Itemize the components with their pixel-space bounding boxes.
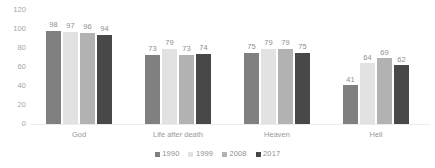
- y-axis-tick: 40: [0, 82, 26, 90]
- x-axis-baseline: [30, 124, 430, 125]
- bar-slot: 96: [80, 10, 95, 124]
- bars-row: 98 97 96 94: [46, 10, 112, 124]
- legend-item-1990[interactable]: 1990: [155, 150, 180, 158]
- bar-group-god: 98 97 96 94 God: [46, 10, 112, 124]
- bar-slot: 79: [278, 10, 293, 124]
- bar-slot: 79: [162, 10, 177, 124]
- bar-value-label: 41: [346, 76, 354, 84]
- bar-2008[interactable]: [377, 58, 392, 124]
- bar-1999[interactable]: [63, 32, 78, 124]
- legend-swatch-icon: [188, 152, 193, 157]
- legend-item-2008[interactable]: 2008: [222, 150, 247, 158]
- legend-item-2017[interactable]: 2017: [256, 150, 281, 158]
- bar-value-label: 97: [66, 22, 74, 30]
- bar-value-label: 73: [148, 45, 156, 53]
- bar-2008[interactable]: [80, 33, 95, 124]
- category-label-hell: Hell: [343, 130, 409, 139]
- bar-slot: 64: [360, 10, 375, 124]
- category-label-life-after-death: Life after death: [145, 130, 211, 139]
- bar-value-label: 98: [49, 21, 57, 29]
- bar-value-label: 75: [247, 43, 255, 51]
- bar-group-life-after-death: 73 79 73 74 Life after death: [145, 10, 211, 124]
- legend-label: 1999: [196, 150, 213, 158]
- y-axis-tick: 120: [0, 6, 26, 14]
- y-axis-tick: 100: [0, 25, 26, 33]
- bar-value-label: 73: [182, 45, 190, 53]
- y-axis: 120 100 80 60 40 20 0: [0, 0, 26, 134]
- bar-slot: 94: [97, 10, 112, 124]
- bar-value-label: 64: [363, 54, 371, 62]
- bar-value-label: 62: [397, 56, 405, 64]
- bar-slot: 74: [196, 10, 211, 124]
- bar-slot: 41: [343, 10, 358, 124]
- bar-1990[interactable]: [244, 53, 259, 124]
- bar-slot: 73: [179, 10, 194, 124]
- legend-swatch-icon: [155, 152, 160, 157]
- bar-group-heaven: 75 79 79 75 Heaven: [244, 10, 310, 124]
- bar-1999[interactable]: [360, 63, 375, 124]
- bar-2008[interactable]: [278, 49, 293, 124]
- bar-value-label: 74: [199, 44, 207, 52]
- bar-2017[interactable]: [295, 53, 310, 124]
- category-label-god: God: [46, 130, 112, 139]
- legend-swatch-icon: [256, 152, 261, 157]
- bars-row: 41 64 69 62: [343, 10, 409, 124]
- bar-slot: 97: [63, 10, 78, 124]
- y-axis-tick: 80: [0, 44, 26, 52]
- bar-1990[interactable]: [46, 31, 61, 124]
- legend-swatch-icon: [222, 152, 227, 157]
- y-axis-tick: 60: [0, 63, 26, 71]
- bar-slot: 75: [244, 10, 259, 124]
- bar-value-label: 79: [264, 39, 272, 47]
- legend: 1990 1999 2008 2017: [0, 150, 435, 158]
- bar-slot: 75: [295, 10, 310, 124]
- bar-slot: 98: [46, 10, 61, 124]
- bar-slot: 69: [377, 10, 392, 124]
- bar-2017[interactable]: [196, 54, 211, 124]
- bar-value-label: 75: [298, 43, 306, 51]
- bar-1999[interactable]: [162, 49, 177, 124]
- legend-label: 1990: [162, 150, 179, 158]
- bar-2008[interactable]: [179, 55, 194, 124]
- bar-group-hell: 41 64 69 62 Hell: [343, 10, 409, 124]
- bar-value-label: 96: [83, 23, 91, 31]
- bar-value-label: 69: [380, 49, 388, 57]
- plot-area: 98 97 96 94 God: [30, 10, 430, 124]
- bars-row: 75 79 79 75: [244, 10, 310, 124]
- bar-1999[interactable]: [261, 49, 276, 124]
- bar-1990[interactable]: [343, 85, 358, 124]
- bar-value-label: 79: [165, 39, 173, 47]
- bar-slot: 79: [261, 10, 276, 124]
- grouped-bar-chart: 120 100 80 60 40 20 0 98 97 96: [0, 0, 435, 168]
- bars-row: 73 79 73 74: [145, 10, 211, 124]
- bar-1990[interactable]: [145, 55, 160, 124]
- y-axis-tick: 0: [0, 120, 26, 128]
- bar-value-label: 94: [100, 25, 108, 33]
- bar-2017[interactable]: [394, 65, 409, 124]
- legend-label: 2017: [263, 150, 280, 158]
- category-label-heaven: Heaven: [244, 130, 310, 139]
- bar-value-label: 79: [281, 39, 289, 47]
- bar-slot: 73: [145, 10, 160, 124]
- legend-item-1999[interactable]: 1999: [188, 150, 213, 158]
- bar-slot: 62: [394, 10, 409, 124]
- legend-label: 2008: [230, 150, 247, 158]
- bar-2017[interactable]: [97, 35, 112, 124]
- y-axis-tick: 20: [0, 101, 26, 109]
